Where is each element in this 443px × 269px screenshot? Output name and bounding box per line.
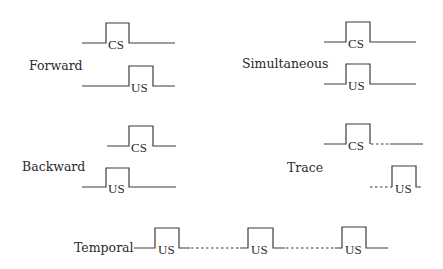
cs-waveform: CS <box>82 23 175 52</box>
cs-pulse-line <box>324 22 416 42</box>
us-pulse-label-2: US <box>251 242 268 257</box>
us-pulse-label-3: US <box>345 242 362 257</box>
us-pulse-label-1: US <box>158 242 175 257</box>
procedure-label-temporal: Temporal <box>74 240 134 255</box>
procedure-forward: Forward CS US <box>29 23 175 95</box>
cs-pulse-label: CS <box>348 138 364 153</box>
cs-waveform: CS <box>107 126 176 155</box>
us-pulse-label: US <box>131 80 148 95</box>
procedure-simultaneous: Simultaneous CS US <box>242 22 416 93</box>
us-pulse-label: US <box>395 181 412 196</box>
us-pulse-label: US <box>108 181 125 196</box>
procedure-backward: Backward CS US <box>22 126 176 196</box>
cs-waveform: CS <box>324 22 416 51</box>
cs-pulse-line <box>82 23 175 43</box>
us-waveform: US <box>82 168 176 196</box>
conditioning-procedures-diagram: Forward CS US Simultaneous CS US Backwar… <box>0 0 443 269</box>
us-waveform: US <box>324 64 416 93</box>
cs-pulse-label: CS <box>108 37 124 52</box>
us-waveform: US <box>82 66 175 95</box>
procedure-temporal: Temporal US US US <box>74 227 388 257</box>
procedure-label-backward: Backward <box>22 159 85 174</box>
cs-waveform: CS <box>324 124 423 153</box>
procedure-label-forward: Forward <box>29 58 83 73</box>
us-pulse-label: US <box>348 78 365 93</box>
cs-pulse-label: CS <box>348 36 364 51</box>
procedure-trace: Trace CS US <box>287 124 423 196</box>
procedure-label-simultaneous: Simultaneous <box>242 56 328 71</box>
us-pulse-line <box>82 168 176 187</box>
us-pulse-line <box>324 64 416 84</box>
procedure-label-trace: Trace <box>287 160 323 175</box>
us-waveform: US <box>370 166 421 196</box>
us-waveform: US US US <box>134 227 388 257</box>
cs-pulse-label: CS <box>131 140 147 155</box>
us-pulse-line <box>82 66 175 86</box>
